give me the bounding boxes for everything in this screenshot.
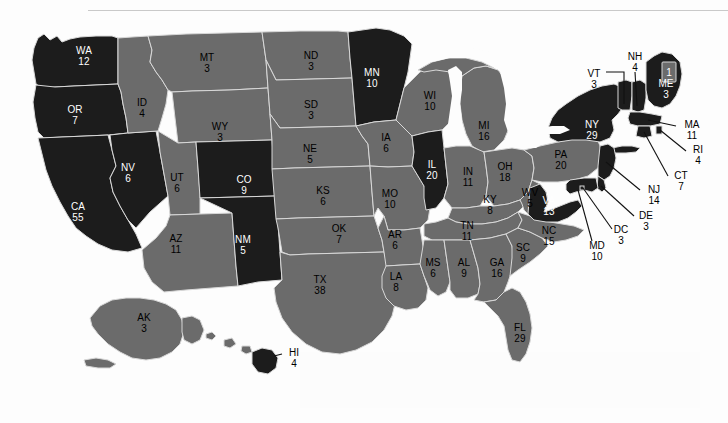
state-MT xyxy=(148,32,268,92)
state-AK-aleutians xyxy=(84,358,116,368)
state-IN xyxy=(444,146,488,208)
leader-line-DE xyxy=(601,186,634,216)
state-TX xyxy=(274,252,396,354)
state-HI-3 xyxy=(241,346,252,354)
state-WA xyxy=(32,34,118,88)
state-OR xyxy=(33,84,128,138)
leader-line-RI xyxy=(660,130,686,151)
leader-line-NJ xyxy=(606,162,640,190)
lake-erie xyxy=(504,138,542,148)
state-HI-2 xyxy=(224,338,236,348)
state-OK xyxy=(276,216,384,255)
state-KS xyxy=(272,166,374,219)
state-RI xyxy=(656,126,662,134)
state-NJ xyxy=(598,144,616,180)
state-AZ xyxy=(142,213,238,292)
state-NH xyxy=(632,80,646,112)
state-CO xyxy=(196,140,276,198)
us-map-svg: .dem { fill: #1c1c1c; stroke: #d8d8d8; s… xyxy=(0,0,728,423)
state-MA xyxy=(628,112,662,126)
state-ND xyxy=(262,31,352,80)
state-WY xyxy=(172,88,272,143)
state-AK xyxy=(90,298,184,360)
state-HI-big xyxy=(252,348,278,374)
state-HI-1 xyxy=(206,332,216,340)
leader-line-CT xyxy=(644,132,668,176)
state-ME-district-box xyxy=(662,62,676,82)
state-VT xyxy=(618,80,632,110)
state-AK-panhandle xyxy=(182,316,204,344)
state-UT xyxy=(158,131,200,215)
electoral-map: .dem { fill: #1c1c1c; stroke: #d8d8d8; s… xyxy=(0,0,728,423)
